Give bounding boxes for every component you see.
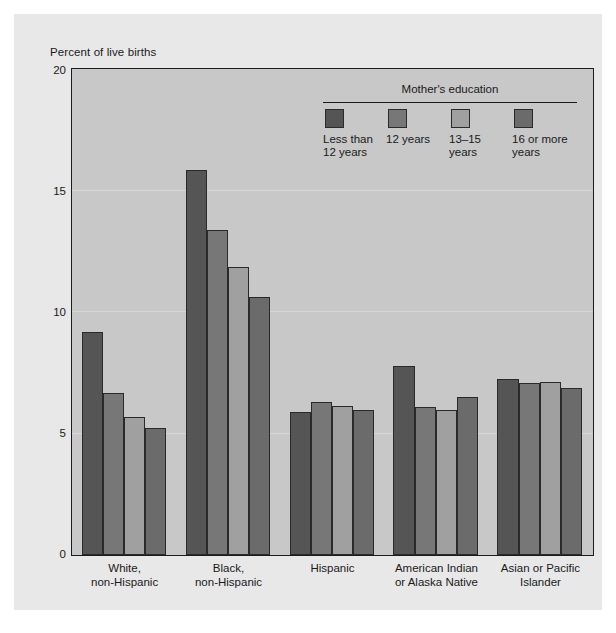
x-axis-group-label-line: or Alaska Native [395, 576, 478, 590]
legend-item: Less than 12 years [323, 109, 386, 159]
legend-item-label: 13–15 years [449, 133, 512, 159]
x-axis-group-label: Black,non-Hispanic [195, 562, 262, 589]
bar [393, 366, 414, 555]
plot-area: Mother's education Less than 12 years12 … [71, 68, 594, 556]
bar [290, 412, 311, 555]
bar [228, 267, 249, 555]
bar [124, 417, 145, 555]
legend-title: Mother's education [323, 83, 577, 95]
bar [145, 428, 166, 555]
bar [353, 410, 374, 555]
bar [332, 406, 353, 555]
bar [561, 388, 582, 555]
x-axis-group-labels: White,non-HispanicBlack,non-HispanicHisp… [71, 562, 594, 606]
x-axis-group-label-line: White, [91, 562, 158, 576]
legend-item-label: 12 years [386, 133, 449, 146]
x-axis-group-label-line: non-Hispanic [91, 576, 158, 590]
legend-item-label: Less than 12 years [323, 133, 386, 159]
legend-divider [323, 102, 577, 103]
bar [436, 410, 457, 555]
y-axis-tick-label: 0 [60, 548, 66, 560]
bar [103, 393, 124, 555]
bar [497, 379, 518, 555]
legend-item: 12 years [386, 109, 449, 146]
legend-swatch [325, 109, 344, 128]
gridline [72, 311, 593, 312]
y-axis-tick-label: 5 [60, 427, 66, 439]
x-axis-group-label-line: Black, [195, 562, 262, 576]
x-axis-group-label: White,non-Hispanic [91, 562, 158, 589]
figure-card: Percent of live births 05101520 Mother's… [14, 14, 602, 610]
legend-swatch [451, 109, 470, 128]
y-axis-tick-labels: 05101520 [32, 68, 66, 556]
legend-item: 16 or more years [512, 109, 575, 159]
legend-swatch [514, 109, 533, 128]
legend-swatch [388, 109, 407, 128]
bar [207, 230, 228, 555]
x-axis-group-label-line: American Indian [395, 562, 478, 576]
y-axis-tick-label: 10 [53, 306, 66, 318]
chart-legend: Mother's education Less than 12 years12 … [323, 83, 577, 175]
legend-item: 13–15 years [449, 109, 512, 159]
bar [519, 383, 540, 555]
bar [82, 332, 103, 555]
x-axis-group-label: Hispanic [310, 562, 354, 576]
x-axis-group-label: American Indianor Alaska Native [395, 562, 478, 589]
x-axis-group-label-line: Hispanic [310, 562, 354, 576]
bar [415, 407, 436, 555]
bar [540, 382, 561, 555]
legend-item-label: 16 or more years [512, 133, 575, 159]
x-axis-group-label-line: Islander [501, 576, 580, 590]
x-axis-group-label: Asian or PacificIslander [501, 562, 580, 589]
y-axis-tick-label: 20 [53, 64, 66, 76]
bar [186, 170, 207, 555]
x-axis-group-label-line: non-Hispanic [195, 576, 262, 590]
y-axis-tick-label: 15 [53, 185, 66, 197]
bar [457, 397, 478, 555]
x-axis-group-label-line: Asian or Pacific [501, 562, 580, 576]
gridline [72, 190, 593, 191]
y-axis-title: Percent of live births [50, 46, 156, 58]
bar [249, 297, 270, 555]
bar [311, 402, 332, 555]
